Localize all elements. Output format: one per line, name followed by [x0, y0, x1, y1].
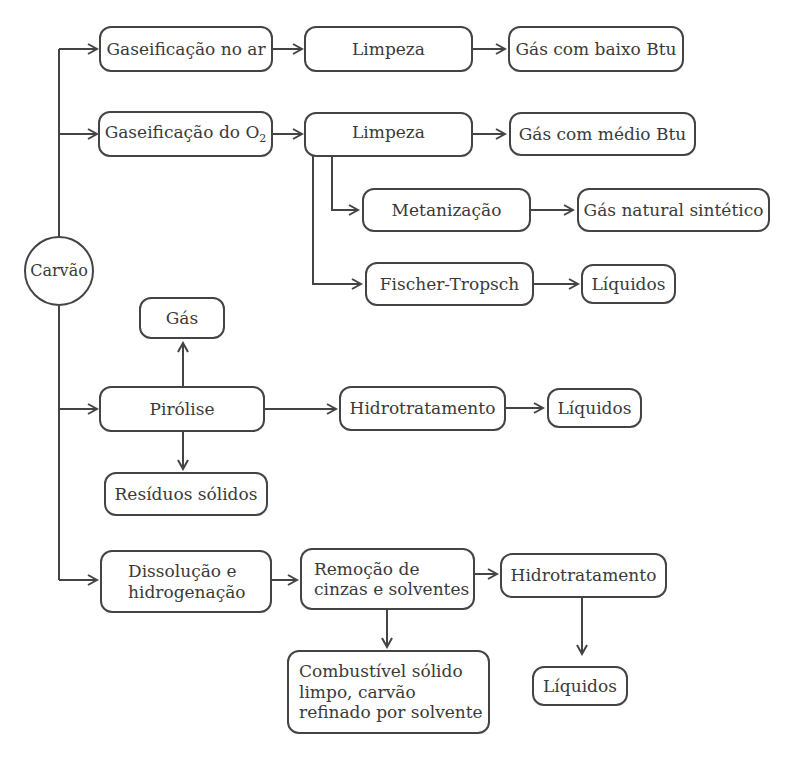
- node-label-line: hidrogenação: [128, 582, 246, 602]
- node-pirolise: Pirólise: [99, 386, 265, 432]
- node-label: Líquidos: [558, 398, 632, 418]
- node-combustivel-solido: Combustível sólidolimpo, carvãorefinado …: [287, 650, 490, 734]
- node-fischer-tropsch: Fischer-Tropsch: [365, 262, 534, 306]
- node-limpeza-2: Limpeza: [304, 112, 473, 157]
- node-label-line: refinado por solvente: [299, 702, 483, 722]
- node-limpeza-1: Limpeza: [304, 26, 473, 72]
- node-hidrotratamento-1: Hidrotratamento: [339, 386, 506, 431]
- node-gas-natural-sintetico: Gás natural sintético: [577, 188, 770, 232]
- node-label-subscript: 2: [259, 133, 266, 146]
- node-label: Líquidos: [543, 676, 617, 696]
- node-label: Gás: [166, 308, 198, 328]
- node-label: Gás natural sintético: [584, 200, 764, 220]
- node-label: Gás com médio Btu: [519, 124, 687, 144]
- node-label: Combustível sólidolimpo, carvãorefinado …: [299, 661, 483, 722]
- node-label-line: cinzas e solventes: [314, 579, 469, 599]
- node-label-line: limpo, carvão: [299, 682, 416, 702]
- node-gas-baixo-btu: Gás com baixo Btu: [508, 26, 684, 72]
- node-label: Metanização: [392, 200, 502, 220]
- node-remocao-cinzas-solventes: Remoção decinzas e solventes: [300, 548, 475, 610]
- node-carvao: Carvão: [24, 236, 94, 306]
- node-label: Limpeza: [352, 39, 425, 59]
- node-gaseificacao-ar: Gaseificação no ar: [99, 26, 273, 72]
- node-label: Fischer-Tropsch: [380, 274, 520, 294]
- node-liquidos-2: Líquidos: [547, 388, 642, 428]
- node-residuos-solidos: Resíduos sólidos: [104, 472, 268, 516]
- node-label: Gaseificação do O2: [105, 122, 267, 146]
- node-label-line: Combustível sólido: [299, 661, 463, 681]
- node-label: Dissolução ehidrogenação: [128, 561, 246, 602]
- node-liquidos-3: Líquidos: [532, 666, 628, 706]
- node-gaseificacao-o2: Gaseificação do O2: [98, 111, 273, 157]
- node-label: Hidrotratamento: [511, 565, 657, 585]
- node-label: Pirólise: [150, 399, 215, 419]
- node-label: Líquidos: [592, 274, 666, 294]
- node-hidrotratamento-2: Hidrotratamento: [500, 553, 667, 598]
- node-label-line: Dissolução e: [128, 561, 237, 581]
- node-label: Carvão: [30, 261, 88, 280]
- node-label: Resíduos sólidos: [115, 484, 258, 504]
- node-dissolucao-hidrogenacao: Dissolução ehidrogenação: [100, 550, 272, 613]
- node-liquidos-1: Líquidos: [581, 264, 676, 304]
- node-metanizacao: Metanização: [362, 188, 531, 232]
- node-label: Hidrotratamento: [350, 398, 496, 418]
- node-label: Gaseificação no ar: [106, 39, 265, 59]
- node-gas: Gás: [139, 297, 225, 339]
- node-gas-medio-btu: Gás com médio Btu: [509, 112, 696, 156]
- node-label-line: Remoção de: [314, 559, 419, 579]
- node-label-main: Gaseificação do O: [105, 122, 260, 142]
- node-label: Remoção decinzas e solventes: [314, 559, 469, 600]
- node-label: Gás com baixo Btu: [515, 39, 676, 59]
- node-label: Limpeza: [352, 122, 425, 142]
